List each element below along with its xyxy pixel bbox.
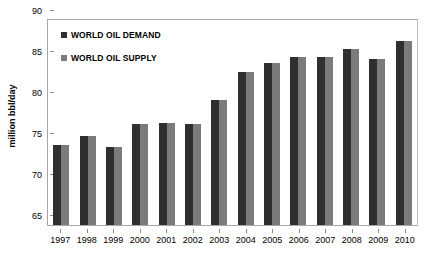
x-axis-tick-label: 1998 [74, 229, 101, 245]
bar-supply[interactable] [140, 124, 148, 225]
bar-group [101, 20, 127, 225]
x-axis-tick-mark [193, 229, 194, 233]
bar-demand[interactable] [396, 41, 404, 225]
bar-group [285, 20, 311, 225]
bar-group [338, 20, 364, 225]
bar-supply[interactable] [193, 124, 201, 225]
x-axis-tick-mark [325, 229, 326, 233]
bar-supply[interactable] [325, 57, 333, 225]
y-axis-tick-label: 65 [32, 212, 48, 221]
bar-demand[interactable] [185, 124, 193, 225]
x-axis-tick-label: 2005 [259, 229, 286, 245]
x-axis-tick-mark [378, 229, 379, 233]
x-axis-tick-mark [60, 229, 61, 233]
bar-supply[interactable] [246, 72, 254, 225]
bar-demand[interactable] [343, 49, 351, 225]
x-axis-tick-label: 1997 [47, 229, 74, 245]
bar-supply[interactable] [88, 136, 96, 225]
bars-container [48, 20, 417, 225]
bar-demand[interactable] [264, 63, 272, 225]
bar-group [206, 20, 232, 225]
y-axis-tick-label: 85 [32, 48, 48, 57]
bar-demand[interactable] [290, 57, 298, 225]
bar-group [233, 20, 259, 225]
bar-group [259, 20, 285, 225]
bar-demand[interactable] [159, 123, 167, 225]
x-axis-tick-label: 2010 [392, 229, 419, 245]
x-axis-tick-label: 2002 [180, 229, 207, 245]
bar-supply[interactable] [377, 59, 385, 225]
plot-area: 908580757065 WORLD OIL DEMANDWORLD OIL S… [47, 19, 418, 226]
bar-demand[interactable] [369, 59, 377, 225]
x-axis-tick-mark [219, 229, 220, 233]
x-axis-tick-mark [113, 229, 114, 233]
bar-supply[interactable] [351, 49, 359, 225]
x-axis-tick-label: 2006 [286, 229, 313, 245]
x-axis-tick-label: 2000 [127, 229, 154, 245]
bar-supply[interactable] [404, 41, 412, 225]
x-axis-tick-label: 2001 [153, 229, 180, 245]
y-axis-title-text: million bbl/day [6, 84, 16, 147]
y-axis-tick-mark [50, 10, 54, 11]
x-axis-tick-mark [87, 229, 88, 233]
bar-demand[interactable] [106, 147, 114, 225]
x-axis-tick-mark [272, 229, 273, 233]
x-axis-tick-mark [352, 229, 353, 233]
bar-supply[interactable] [167, 123, 175, 225]
x-axis-tick-label: 1999 [100, 229, 127, 245]
x-axis-tick-label: 2008 [339, 229, 366, 245]
y-axis-tick-label: 90 [32, 7, 48, 16]
bar-group [364, 20, 390, 225]
bar-group [153, 20, 179, 225]
x-axis-tick-mark [405, 229, 406, 233]
bar-demand[interactable] [238, 72, 246, 225]
bar-group [391, 20, 417, 225]
y-axis-tick-label: 70 [32, 171, 48, 180]
bar-supply[interactable] [219, 100, 227, 225]
x-axis-tick-mark [166, 229, 167, 233]
x-axis-tick-mark [299, 229, 300, 233]
y-axis-title: million bbl/day [0, 0, 22, 232]
bar-demand[interactable] [80, 136, 88, 225]
x-axis-tick-label: 2009 [365, 229, 392, 245]
bar-demand[interactable] [132, 124, 140, 225]
y-axis-tick-label: 75 [32, 130, 48, 139]
bar-chart: million bbl/day 908580757065 WORLD OIL D… [0, 0, 435, 258]
bar-supply[interactable] [61, 145, 69, 225]
x-axis-tick-label: 2004 [233, 229, 260, 245]
bar-group [312, 20, 338, 225]
x-axis-tick-mark [246, 229, 247, 233]
bar-group [74, 20, 100, 225]
bar-group [48, 20, 74, 225]
bar-supply[interactable] [114, 147, 122, 225]
bar-demand[interactable] [53, 145, 61, 225]
x-axis-tick-label: 2007 [312, 229, 339, 245]
bar-supply[interactable] [298, 57, 306, 225]
bar-group [180, 20, 206, 225]
bar-demand[interactable] [211, 100, 219, 225]
y-axis-tick-label: 80 [32, 89, 48, 98]
bar-demand[interactable] [317, 57, 325, 225]
x-axis-tick-mark [140, 229, 141, 233]
x-axis-labels: 1997199819992000200120022003200420052006… [47, 229, 418, 245]
bar-supply[interactable] [272, 63, 280, 225]
bar-group [127, 20, 153, 225]
x-axis-tick-label: 2003 [206, 229, 233, 245]
